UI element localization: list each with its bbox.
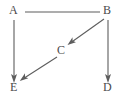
node-label-e: E [10,81,17,93]
edge-a-e [11,20,17,83]
graph-diagram: A B C D E [0,0,122,98]
node-label-d: D [103,81,112,93]
edge-c-e [20,57,57,81]
node-label-c: C [57,44,65,56]
node-label-a: A [9,4,18,16]
edge-b-d [105,20,111,83]
node-label-b: B [103,4,111,16]
edge-b-c [68,19,105,45]
